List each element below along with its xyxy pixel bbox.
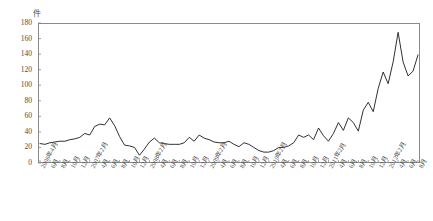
y-axis-tick-label: 40 — [6, 128, 32, 136]
y-axis-tick-label: 80 — [6, 97, 32, 105]
y-axis-tick-label: 120 — [6, 66, 32, 74]
y-axis-tick-label: 0 — [6, 159, 32, 167]
y-axis-tick-label: 20 — [6, 143, 32, 151]
plot-area — [38, 23, 420, 163]
y-axis-tick-label: 140 — [6, 50, 32, 58]
y-axis-tick-label: 100 — [6, 81, 32, 89]
y-axis-tick-label: 60 — [6, 112, 32, 120]
y-axis-tick-label: 180 — [6, 19, 32, 27]
y-axis-unit-label: 件 — [33, 9, 41, 19]
y-axis-tick-label: 160 — [6, 35, 32, 43]
x-axis-tick-label: 6月 — [347, 158, 358, 169]
x-axis-tick-label: 4月 — [158, 158, 169, 169]
x-axis-tick-label: 4月 — [337, 158, 348, 169]
line-chart: 件 020406080100120140160180 2006年4月6月8月10… — [0, 0, 433, 221]
